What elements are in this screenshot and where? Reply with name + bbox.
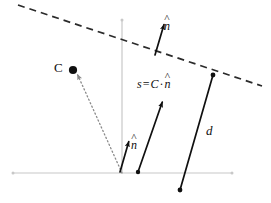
diagram-canvas (0, 0, 271, 203)
y-axis-top-endpoint (121, 19, 124, 22)
normal-vector-top-arrow (155, 25, 164, 56)
vector-plane-diagram: C d ^ n ^ n s=C·^n (0, 0, 271, 203)
x-axis-right-endpoint (231, 172, 234, 175)
normal-vector-bottom-arrow (120, 142, 129, 173)
label-point-c: C (54, 61, 63, 74)
axes (12, 19, 234, 175)
normal-bottom-hat-accent: ^ (131, 132, 136, 143)
normal-top-hat-accent: ^ (164, 13, 169, 24)
x-axis-left-endpoint (12, 172, 15, 175)
s-equation-hat-accent: ^ (165, 71, 170, 82)
label-distance-d: d (206, 124, 213, 137)
point-c-marker (69, 66, 77, 74)
distance-d-bottom-dot (178, 188, 183, 193)
s-equation-lhs: s (137, 77, 142, 91)
label-normal-bottom: ^ n (131, 139, 137, 151)
label-normal-top: ^ n (164, 20, 170, 32)
label-s-equation: s=C·^n (137, 78, 170, 90)
distance-d-top-dot (211, 73, 216, 78)
s-projection-vector-arrow (138, 102, 162, 172)
origin-to-c-dotted-ray (78, 75, 123, 174)
